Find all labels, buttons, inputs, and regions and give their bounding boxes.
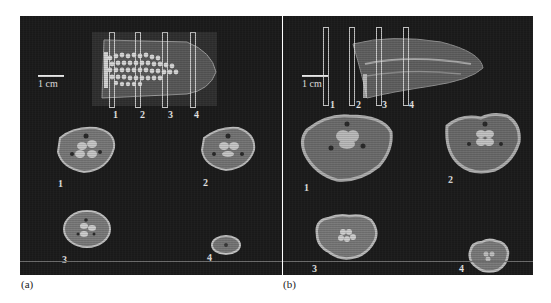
slice-label-2: 2 xyxy=(356,99,361,110)
baseline-a xyxy=(20,261,282,262)
slice-label-3: 3 xyxy=(168,109,173,120)
slice-label-4: 4 xyxy=(194,109,199,120)
scale-bar-label: 1 cm xyxy=(38,78,58,89)
slice-marker-3 xyxy=(162,32,168,108)
slice-label-3: 3 xyxy=(382,99,387,110)
cross-section-label-2: 2 xyxy=(203,177,208,188)
panel-a: 1 2 3 4 1 cm 1 2 3 4 xyxy=(20,16,282,275)
slice-marker-3 xyxy=(376,27,382,106)
cross-section-label-1: 1 xyxy=(58,178,63,189)
baseline-b xyxy=(283,261,533,262)
cross-section-b-4 xyxy=(466,238,512,275)
cross-section-label-4: 4 xyxy=(459,263,464,274)
slice-label-4: 4 xyxy=(409,99,414,110)
scale-bar-b: 1 cm xyxy=(302,75,328,89)
cross-section-a-3 xyxy=(62,208,114,252)
slice-marker-4 xyxy=(190,32,196,108)
scale-bar-label: 1 cm xyxy=(302,78,322,89)
slice-marker-1 xyxy=(323,27,329,106)
cross-section-b-3 xyxy=(313,212,381,262)
panel-b: 1 2 3 4 1 cm 1 2 3 4 xyxy=(283,16,533,275)
longitudinal-fruit-image-b xyxy=(351,34,491,100)
cross-section-label-1: 1 xyxy=(304,182,309,193)
panel-label-b: (b) xyxy=(283,278,296,290)
cross-section-a-1 xyxy=(54,124,118,176)
cross-section-label-3: 3 xyxy=(62,254,67,265)
slice-marker-2 xyxy=(349,27,355,106)
cross-section-b-2 xyxy=(441,112,523,178)
slice-label-1: 1 xyxy=(113,109,118,120)
panel-label-a: (a) xyxy=(21,278,33,290)
cross-section-label-3: 3 xyxy=(312,263,317,274)
cross-section-label-2: 2 xyxy=(448,174,453,185)
cross-section-a-4 xyxy=(211,235,243,257)
cross-section-a-2 xyxy=(198,124,258,176)
scale-bar-a: 1 cm xyxy=(38,75,64,89)
cross-section-b-1 xyxy=(297,110,397,186)
slice-label-2: 2 xyxy=(140,109,145,120)
slice-marker-2 xyxy=(135,32,141,108)
slice-marker-4 xyxy=(403,27,409,106)
slice-marker-1 xyxy=(109,32,115,108)
slice-label-1: 1 xyxy=(330,99,335,110)
